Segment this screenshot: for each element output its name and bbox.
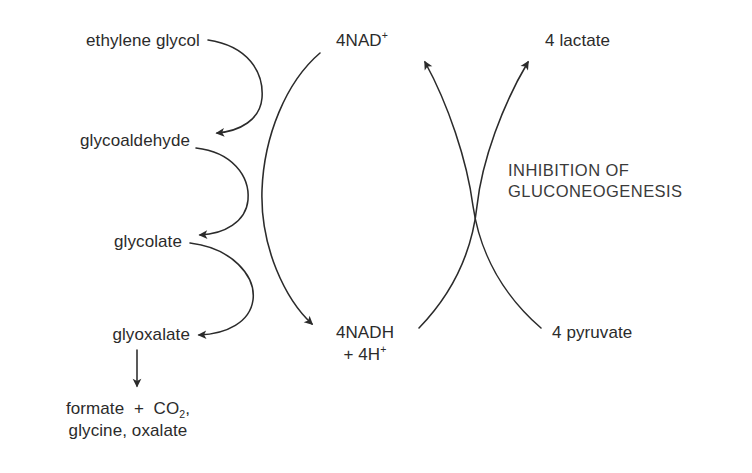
node-label-pyruvate: 4 pyruvate (552, 322, 632, 344)
node-label-glycoaldehyde: glycoaldehyde (10, 130, 190, 152)
node-label-ethylene-glycol: ethylene glycol (10, 30, 200, 52)
nadh-line-2: + 4H+ (302, 344, 428, 366)
arrow-glycolate-to-glyoxalate (190, 243, 253, 335)
inhibition-line-1: INHIBITION OF (508, 160, 683, 181)
nad-text: 4NAD (336, 31, 382, 50)
products-formate: formate (66, 399, 124, 418)
nad-charge-superscript: + (382, 29, 388, 41)
arrow-glycoaldehyde-to-glycolate (196, 148, 248, 235)
products-co2: CO (154, 399, 180, 418)
products-plus: + (134, 399, 144, 418)
arrow-ethylene-glycol-to-glycoaldehyde (208, 40, 262, 133)
annotation-inhibition-of-gluconeogenesis: INHIBITION OF GLUCONEOGENESIS (508, 160, 683, 203)
node-label-lactate: 4 lactate (545, 30, 610, 52)
nadh-proton-text: + 4H (343, 345, 380, 364)
node-label-nad-plus: 4NAD+ (302, 30, 422, 52)
arrow-nad-to-nadh-cofactor (262, 53, 320, 324)
products-comma: , (185, 399, 190, 418)
products-line-1: formate + CO2, (18, 398, 238, 420)
products-line-2: glycine, oxalate (18, 420, 238, 442)
nadh-proton-superscript: + (380, 343, 386, 355)
node-label-nadh: 4NADH + 4H+ (302, 322, 428, 366)
pathway-diagram: ethylene glycol glycoaldehyde glycolate … (0, 0, 752, 473)
node-label-glyoxalate: glyoxalate (10, 324, 190, 346)
nadh-line-1: 4NADH (302, 322, 428, 344)
node-label-products: formate + CO2, glycine, oxalate (18, 398, 238, 442)
inhibition-line-2: GLUCONEOGENESIS (508, 181, 683, 202)
node-label-glycolate: glycolate (10, 231, 182, 253)
